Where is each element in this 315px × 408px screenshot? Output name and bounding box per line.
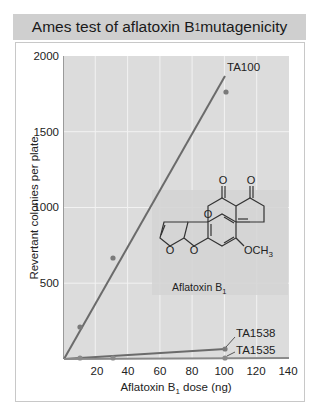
- ta1535-point-30: [110, 355, 115, 360]
- x-tick-120: 120: [246, 365, 265, 377]
- x-tick-40: 40: [122, 365, 135, 377]
- y-tick-500: 500: [40, 277, 59, 289]
- chart-svg: 500 1000 1500 2000 20 40 60 80 100 120 1…: [0, 0, 315, 408]
- structure-o-furan-1: O: [190, 244, 199, 256]
- ta100-point-30: [110, 255, 115, 260]
- structure-o-lactone: O: [204, 208, 213, 220]
- x-tick-140: 140: [278, 365, 297, 377]
- y-axis-label: Revertant colonies per plate: [28, 136, 40, 279]
- x-tick-20: 20: [91, 365, 104, 377]
- structure-o-carbonyl-2: O: [247, 174, 256, 186]
- y-tick-1500: 1500: [33, 126, 59, 138]
- ta1535-label: TA1535: [236, 344, 275, 356]
- x-axis-label: Aflatoxin B1 dose (ng): [120, 381, 231, 396]
- structure-o-carbonyl-1: O: [219, 174, 228, 186]
- aflatoxin-structure: O O O O O OCH3 Aflatoxin B1: [152, 174, 288, 296]
- ta1538-point-100: [222, 346, 227, 351]
- ta100-point-10: [77, 324, 82, 329]
- x-tick-60: 60: [154, 365, 167, 377]
- x-tick-100: 100: [214, 365, 233, 377]
- ta1535-line: [64, 358, 289, 359]
- ta1538-label: TA1538: [236, 327, 275, 339]
- ta100-point-100: [223, 89, 228, 94]
- y-tick-2000: 2000: [33, 50, 59, 62]
- ta1535-point-100: [222, 355, 227, 360]
- ta1535-point-10: [77, 355, 82, 360]
- ta100-label: TA100: [227, 61, 260, 73]
- structure-background: [152, 190, 288, 295]
- structure-o-furan-2: O: [166, 244, 175, 256]
- x-tick-80: 80: [186, 365, 199, 377]
